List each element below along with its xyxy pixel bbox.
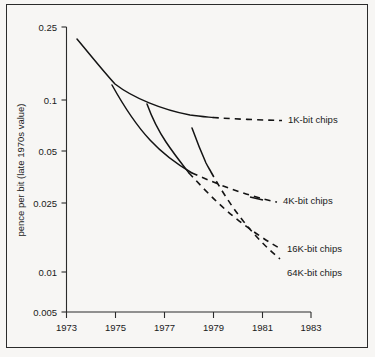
series-label-4k: 4K-bit chips	[283, 195, 333, 206]
y-axis-title: pence per bit (late 1970s value)	[15, 103, 26, 236]
x-tick-label: 1979	[203, 322, 224, 333]
series-line-16k-solid	[147, 104, 189, 173]
series-label-16k: 16K-bit chips	[287, 243, 342, 254]
y-tick-label: 0.05	[39, 146, 58, 157]
x-axis-ticks	[67, 312, 312, 318]
x-tick-label: 1975	[105, 322, 126, 333]
series-line-64k-solid	[192, 128, 211, 172]
y-axis-tick-labels: 0.25 0.1 0.05 0.025 0.01 0.005	[33, 22, 57, 318]
y-tick-label: 0.25	[39, 22, 58, 33]
series-label-1k: 1K-bit chips	[288, 114, 338, 125]
x-tick-label: 1973	[56, 322, 77, 333]
x-tick-label: 1983	[300, 322, 321, 333]
y-tick-label: 0.025	[33, 198, 57, 209]
series-line-4k-dashed	[192, 173, 277, 202]
chart-canvas: 0.25 0.1 0.05 0.025 0.01 0.005 1973 1975…	[0, 0, 375, 357]
y-tick-label: 0.1	[44, 95, 57, 106]
chart-page: 0.25 0.1 0.05 0.025 0.01 0.005 1973 1975…	[0, 0, 375, 357]
series-label-64k: 64K-bit chips	[287, 267, 342, 278]
x-axis-tick-labels: 1973 1975 1977 1979 1981 1983	[56, 322, 322, 333]
y-tick-label: 0.005	[33, 307, 57, 318]
y-tick-label: 0.01	[39, 267, 58, 278]
y-axis-ticks	[62, 27, 67, 312]
series-line-64k-dashed	[211, 172, 280, 259]
x-tick-label: 1977	[154, 322, 175, 333]
x-tick-label: 1981	[252, 322, 273, 333]
series-line-1k-dashed	[213, 118, 282, 121]
series-line-1k-solid	[77, 39, 213, 118]
series-line-4k-solid	[112, 85, 192, 173]
